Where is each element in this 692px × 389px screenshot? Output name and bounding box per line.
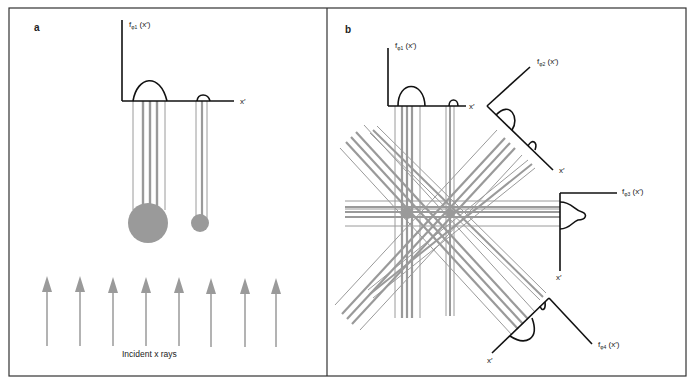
rays-phi2 (335, 130, 535, 330)
panel-a-letter: a (34, 22, 40, 33)
projection-phi4-x-label: x′ (487, 356, 493, 365)
projection-phi2-x-label: x′ (559, 166, 565, 175)
large-object (128, 203, 168, 243)
tomography-figure: a fφ1 (x′) x′ (0, 0, 692, 389)
large-object-crossing (401, 207, 413, 219)
projection-phi4-f-label: fφ4 (x′) (598, 340, 620, 350)
projection-phi1-f-label: fφ1 (x′) (395, 41, 417, 51)
small-object (191, 214, 209, 232)
projection-phi3 (560, 193, 617, 271)
projection-phi3-f-label: fφ3 (x′) (622, 187, 644, 197)
panel-a-projection-axes (122, 20, 234, 101)
incident-rays-label: Incident x rays (122, 349, 177, 359)
panel-a-x-label: x′ (240, 97, 246, 106)
incident-arrows (42, 276, 281, 347)
projection-phi2 (487, 67, 553, 170)
projection-phi2-f-label: fφ2 (x′) (537, 57, 559, 67)
projection-phi1 (388, 48, 466, 106)
projection-phi1-x-label: x′ (469, 102, 475, 111)
panel-a-f-label: fφ1 (x′) (129, 20, 151, 30)
panel-b-letter: b (345, 24, 351, 35)
figure-frame (9, 8, 686, 376)
panel-b: b (335, 24, 644, 365)
small-object-crossing (446, 209, 454, 217)
panel-a: a fφ1 (x′) x′ (34, 20, 281, 359)
panel-a-rays (133, 101, 207, 220)
projection-phi3-x-label: x′ (556, 273, 562, 282)
